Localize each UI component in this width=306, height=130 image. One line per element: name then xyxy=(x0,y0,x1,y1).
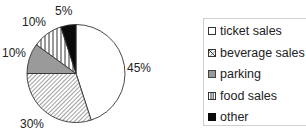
swatch-white-icon xyxy=(208,27,216,35)
swatch-stripes-icon xyxy=(208,92,216,100)
legend-label: food sales xyxy=(220,89,277,103)
label-beverage-sales: 30% xyxy=(20,118,44,130)
legend-item-beverage-sales: beverage sales xyxy=(208,46,305,60)
label-ticket-sales: 45% xyxy=(127,62,151,74)
legend-item-food-sales: food sales xyxy=(208,89,277,103)
legend: ticket sales beverage sales parking food… xyxy=(203,18,306,126)
swatch-black-icon xyxy=(208,113,216,121)
swatch-hatch-icon xyxy=(208,49,216,57)
legend-item-other: other xyxy=(208,110,249,124)
label-other: 5% xyxy=(55,5,72,17)
swatch-gray-icon xyxy=(208,70,216,78)
label-parking: 10% xyxy=(2,47,26,59)
legend-label: ticket sales xyxy=(220,24,282,38)
label-food-sales: 10% xyxy=(22,16,46,28)
legend-item-parking: parking xyxy=(208,67,261,81)
legend-item-ticket-sales: ticket sales xyxy=(208,24,282,38)
legend-label: parking xyxy=(220,67,261,81)
legend-label: beverage sales xyxy=(220,46,305,60)
legend-label: other xyxy=(220,110,249,124)
